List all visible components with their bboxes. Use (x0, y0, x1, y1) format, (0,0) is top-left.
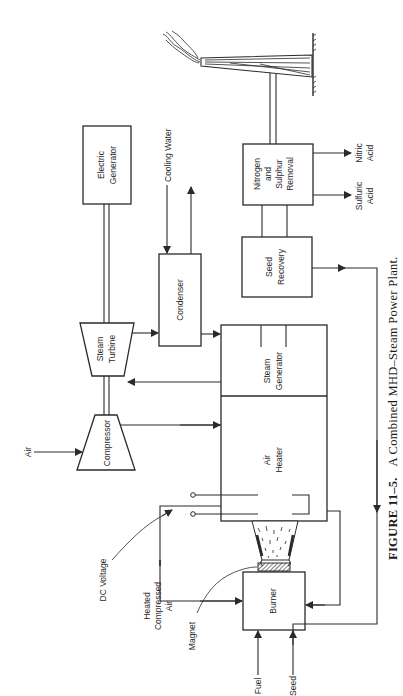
figure-caption: FIGURE 11–5. A Combined MHD–Steam Power … (386, 256, 400, 560)
nsr-label-4: Removal (285, 157, 295, 191)
duct-seed-nitrogen (262, 205, 287, 237)
condenser-label: Condenser (175, 279, 185, 321)
nsr-label-2: and (263, 167, 273, 181)
compressor-label: Compressor (102, 420, 112, 466)
electric-generator-box (83, 126, 131, 204)
burner-label: Burner (268, 588, 278, 614)
mhd-steam-plant-diagram: Electric Generator Steam Turbine Compres… (0, 0, 403, 696)
heated-compressed-air-callout: Heated Compressed Air (142, 582, 174, 630)
steam-generator-block: Steam Generator Air Heater (221, 325, 327, 521)
air-label: Air (23, 447, 33, 458)
steam-turbine-label-1: Steam (95, 337, 105, 362)
magnet-callout: Magnet (187, 567, 257, 650)
heated-label-2: Compressed (153, 582, 163, 630)
magnet-label: Magnet (187, 621, 197, 650)
dc-voltage-terminals (191, 493, 309, 517)
shaft-generator-turbine (104, 204, 109, 323)
airheater-to-burner-right (306, 511, 340, 605)
duct-steamgen-seed (261, 325, 286, 347)
acid-outputs: Nitric Acid Sulfuric Acid (313, 143, 375, 211)
nitrogen-sulphur-removal-block: Nitrogen and Sulphur Removal (243, 144, 313, 205)
mhd-channel (252, 521, 298, 566)
caption-title: A Combined MHD–Steam Power Plant. (386, 256, 400, 466)
burner-block: Burner (243, 572, 305, 630)
nsr-label-1: Nitrogen (252, 158, 262, 190)
seed-recovery-block: Seed Recovery (242, 237, 312, 297)
compressor-block: Compressor (77, 415, 135, 470)
sulfuric-acid-label-2: Acid (365, 187, 375, 204)
magnet-bar (258, 563, 290, 571)
air-heater-label-1: Air (262, 455, 272, 466)
heated-air-loop (160, 506, 242, 601)
duct-to-stack (270, 72, 276, 144)
condenser-block: Condenser (159, 254, 201, 346)
electric-generator-label-2: Generator (108, 146, 118, 184)
shaft-turbine-compressor (104, 376, 109, 415)
electric-generator-label-1: Electric (96, 150, 106, 179)
nitric-acid-label-2: Acid (365, 144, 375, 161)
heated-label-1: Heated (142, 592, 152, 620)
steam-turbine-block: Steam Turbine (80, 323, 134, 376)
heated-label-3: Air (164, 601, 174, 612)
seed-recovery-label-1: Seed (264, 257, 274, 277)
electric-generator-block: Electric Generator (83, 126, 131, 204)
svg-text:FIGURE 11–5. A Combined: FIGURE 11–5. A Combined MHD–Steam Power … (386, 256, 400, 560)
air-heater-label-2: Heater (274, 447, 284, 473)
seed-label: Seed (288, 676, 298, 696)
sulfuric-acid-label-1: Sulfuric (354, 181, 364, 210)
cooling-water: Cooling Water (163, 128, 191, 254)
caption-number: FIGURE 11–5. (386, 477, 400, 560)
fuel-label: Fuel (253, 678, 263, 695)
steam-generator-label-2: Generator (274, 352, 284, 390)
cooling-water-label: Cooling Water (163, 128, 173, 182)
seed-recovery-label-2: Recovery (276, 248, 286, 285)
air-inlet: Air (23, 447, 82, 458)
dc-voltage-label: DC Voltage (98, 558, 108, 601)
fuel-seed-inputs: Fuel Seed (253, 631, 298, 696)
nitric-acid-label-1: Nitric (354, 143, 364, 163)
steam-turbine-label-2: Turbine (107, 334, 117, 363)
smokestack-icon (163, 31, 316, 96)
steam-generator-label-1: Steam (262, 359, 272, 384)
nsr-label-3: Sulphur (274, 159, 284, 188)
